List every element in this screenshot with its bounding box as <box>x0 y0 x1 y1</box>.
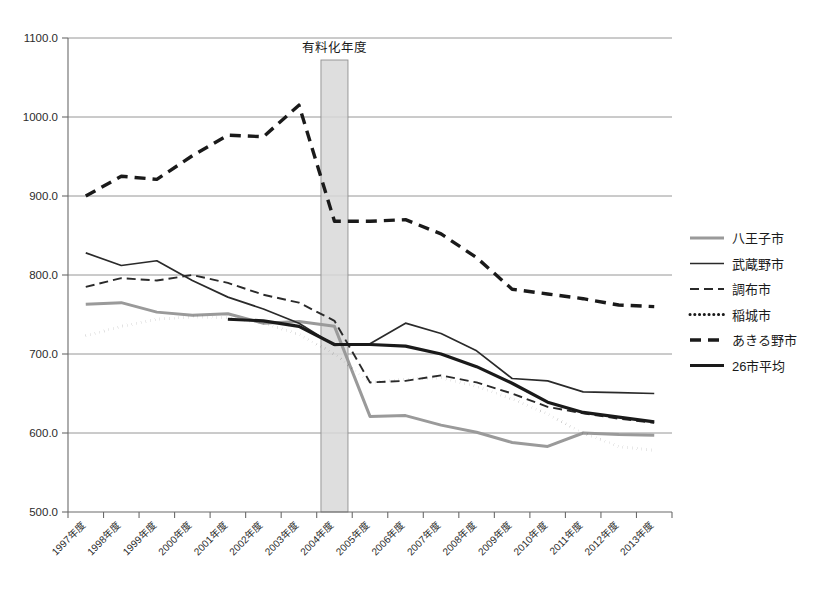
chart-canvas: 1100.01000.0900.0800.0700.0600.0500.0 19… <box>0 0 821 590</box>
y-tick-label: 900.0 <box>29 190 58 202</box>
x-tick-label: 2009年度 <box>475 519 513 557</box>
x-tick-label: 2002年度 <box>226 519 264 557</box>
legend-label-4: あきる野市 <box>732 333 797 348</box>
y-axis-ticks: 1100.01000.0900.0800.0700.0600.0500.0 <box>23 32 68 518</box>
x-tick-label: 2011年度 <box>547 519 585 557</box>
legend-label-2: 調布市 <box>732 282 771 297</box>
y-tick-label: 500.0 <box>29 506 58 518</box>
legend-label-1: 武蔵野市 <box>732 257 784 272</box>
band-annotation-label: 有料化年度 <box>302 40 367 55</box>
y-tick-label: 600.0 <box>29 427 58 439</box>
fee-introduction-band-rect <box>321 60 348 512</box>
x-tick-label: 2000年度 <box>155 519 193 557</box>
y-tick-label: 1000.0 <box>23 111 58 123</box>
y-tick-label: 800.0 <box>29 269 58 281</box>
y-tick-label: 1100.0 <box>24 32 58 44</box>
y-tick-label: 700.0 <box>29 348 58 360</box>
x-tick-label: 2005年度 <box>333 519 371 557</box>
legend: 八王子市武蔵野市調布市稲城市あきる野市26市平均 <box>690 231 797 374</box>
x-tick-label: 2003年度 <box>262 519 300 557</box>
fee-introduction-band <box>321 60 348 512</box>
x-axis-ticks: 1997年度1998年度1999年度2000年度2001年度2002年度2003… <box>49 512 672 557</box>
line-chart: 1100.01000.0900.0800.0700.0600.0500.0 19… <box>0 0 821 590</box>
x-tick-label: 1997年度 <box>49 519 87 557</box>
x-tick-label: 2004年度 <box>298 519 336 557</box>
x-tick-label: 2007年度 <box>404 519 442 557</box>
x-tick-label: 2013年度 <box>617 519 655 557</box>
x-tick-label: 2001年度 <box>191 519 229 557</box>
fee-introduction-band-label: 有料化年度 <box>302 40 367 55</box>
x-tick-label: 2006年度 <box>369 519 407 557</box>
legend-label-5: 26市平均 <box>732 359 785 374</box>
x-tick-label: 2008年度 <box>440 519 478 557</box>
legend-label-3: 稲城市 <box>732 308 771 323</box>
x-tick-label: 2012年度 <box>582 519 620 557</box>
x-tick-label: 2010年度 <box>511 519 549 557</box>
x-tick-label: 1999年度 <box>120 519 158 557</box>
x-tick-label: 1998年度 <box>84 519 122 557</box>
legend-label-0: 八王子市 <box>732 231 784 246</box>
